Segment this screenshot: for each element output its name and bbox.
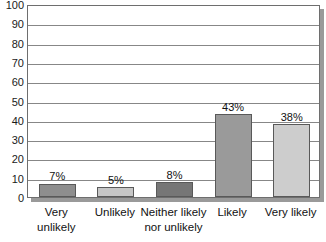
bar-value-label: 7% [25,171,90,182]
plot-shadow-bottom [31,198,324,202]
bar[interactable] [273,124,310,197]
y-tick-label: 50 [0,96,24,107]
y-tick-label: 30 [0,135,24,146]
bar[interactable] [97,187,134,197]
bar[interactable] [215,114,252,197]
y-tick-label: 40 [0,115,24,126]
bar-group: 5% [97,6,134,197]
plot-shadow-right [320,9,324,202]
bar[interactable] [39,184,76,198]
bars-layer: 7%5%8%43%38% [28,6,319,197]
bar-group: 38% [273,6,310,197]
y-tick-label: 0 [0,193,24,204]
y-tick-label: 20 [0,154,24,165]
bar-value-label: 8% [142,170,207,181]
bar-value-label: 5% [83,175,148,186]
bar-group: 7% [39,6,76,197]
y-tick-label: 100 [0,0,24,11]
bar[interactable] [156,182,193,197]
bar-group: 43% [215,6,252,197]
y-tick-label: 70 [0,57,24,68]
bar-group: 8% [156,6,193,197]
x-category-label: Very likely [251,205,326,220]
y-tick-label: 80 [0,38,24,49]
bar-value-label: 43% [201,102,266,113]
x-axis-category-labels: Very unlikelyUnlikelyNeither likely nor … [27,205,320,242]
bar-chart: 1009080706050403020100 7%5%8%43%38% Very… [0,0,326,242]
bar-value-label: 38% [259,112,324,123]
y-tick-label: 10 [0,173,24,184]
y-tick-label: 90 [0,19,24,30]
y-tick-label: 60 [0,77,24,88]
y-axis: 1009080706050403020100 [0,0,24,202]
plot-area: 7%5%8%43%38% [27,5,320,198]
